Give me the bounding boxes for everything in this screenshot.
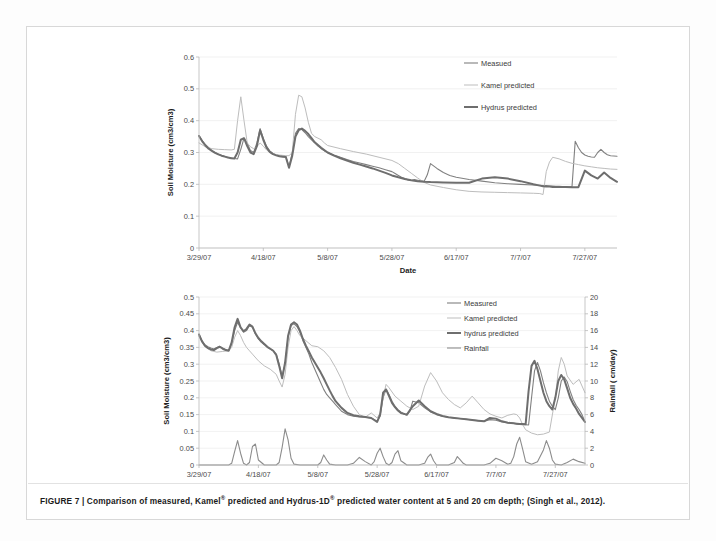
xtick-label: 7/27/07 [573, 253, 598, 262]
xtick-label: 3/29/07 [187, 470, 212, 479]
xtick-label: 7/7/07 [486, 470, 507, 479]
xtick-label: 6/17/07 [444, 253, 469, 262]
xtick-label: 7/27/07 [543, 470, 568, 479]
xtick-label: 5/8/07 [317, 253, 338, 262]
xtick-label: 5/28/07 [380, 253, 405, 262]
chart-svg-top: 00.10.20.30.40.50.63/29/074/18/075/8/075… [157, 35, 627, 290]
xtick-label: 3/29/07 [187, 253, 212, 262]
y2tick-label: 18 [590, 309, 598, 318]
legend-label-2: Hydrus predicted [481, 103, 537, 112]
figure-caption-bar: FIGURE 7 | Comparison of measured, Kamel… [28, 483, 688, 518]
ytick-label: 0.05 [180, 444, 194, 453]
series-line-2 [199, 319, 585, 425]
y-axis-title: Soil Moisture (cm3/cm3) [162, 337, 171, 425]
chart-svg-bottom: 00.050.10.150.20.250.30.350.40.450.50246… [157, 275, 627, 507]
xtick-label: 7/7/07 [510, 253, 531, 262]
y2tick-label: 2 [590, 444, 594, 453]
ytick-label: 0.45 [180, 309, 194, 318]
legend-label-0: Measued [481, 59, 511, 68]
ytick-label: 0 [190, 244, 194, 253]
legend-label-0: Measured [464, 299, 497, 308]
y2tick-label: 4 [590, 427, 594, 436]
chart-soil-moisture-5cm: 00.10.20.30.40.50.63/29/074/18/075/8/075… [157, 35, 627, 290]
xtick-label: 5/8/07 [307, 470, 328, 479]
ytick-label: 0.35 [180, 343, 194, 352]
series-group [199, 319, 585, 465]
figure-panel: 00.10.20.30.40.50.63/29/074/18/075/8/075… [26, 26, 690, 520]
ytick-label: 0.2 [184, 180, 194, 189]
legend: MeasuedKamel predictedHydrus predicted [464, 59, 537, 112]
figure-page: 00.10.20.30.40.50.63/29/074/18/075/8/075… [0, 0, 716, 541]
ytick-label: 0.25 [180, 377, 194, 386]
y2tick-label: 12 [590, 360, 598, 369]
y2tick-label: 16 [590, 326, 598, 335]
axes: 00.10.20.30.40.50.63/29/074/18/075/8/075… [184, 53, 617, 262]
ytick-label: 0.5 [184, 84, 194, 93]
y2tick-label: 10 [590, 377, 598, 386]
xtick-label: 4/18/07 [246, 470, 271, 479]
legend-label-1: Kamel predicted [481, 81, 534, 90]
ytick-label: 0 [190, 461, 194, 470]
y2-axis-title: Rainfall ( cm/day) [608, 349, 617, 412]
axes: 00.050.10.150.20.250.30.350.40.450.50246… [180, 293, 599, 479]
legend: MeasuredKamel predictedhydrus predictedR… [447, 299, 519, 353]
gridlines [199, 297, 585, 465]
figure-caption-text: FIGURE 7 | Comparison of measured, Kamel… [28, 495, 605, 507]
xtick-label: 6/17/07 [424, 470, 449, 479]
y2tick-label: 0 [590, 461, 594, 470]
ytick-label: 0.3 [184, 148, 194, 157]
legend-label-1: Kamel predicted [464, 314, 517, 323]
y2tick-label: 20 [590, 293, 598, 302]
ytick-label: 0.6 [184, 53, 194, 62]
ytick-label: 0.15 [180, 410, 194, 419]
ytick-label: 0.5 [184, 293, 194, 302]
y-axis-title: Soil Moisture (cm3/cm3) [166, 108, 175, 196]
xtick-label: 5/28/07 [365, 470, 390, 479]
ytick-label: 0.2 [184, 393, 194, 402]
xtick-label: 4/18/07 [251, 253, 276, 262]
chart-soil-moisture-20cm-with-rainfall: 00.050.10.150.20.250.30.350.40.450.50246… [157, 275, 627, 507]
y2tick-label: 6 [590, 410, 594, 419]
ytick-label: 0.1 [184, 212, 194, 221]
y2tick-label: 8 [590, 393, 594, 402]
y2tick-label: 14 [590, 343, 598, 352]
x-axis-title: Date [400, 266, 416, 275]
ytick-label: 0.4 [184, 326, 194, 335]
series-group [199, 95, 617, 194]
series-line-3 [199, 429, 585, 465]
ytick-label: 0.3 [184, 360, 194, 369]
legend-label-2: hydrus predicted [464, 329, 519, 338]
gridlines [199, 57, 617, 248]
ytick-label: 0.4 [184, 116, 194, 125]
ytick-label: 0.1 [184, 427, 194, 436]
legend-label-3: Rainfall [464, 344, 489, 353]
